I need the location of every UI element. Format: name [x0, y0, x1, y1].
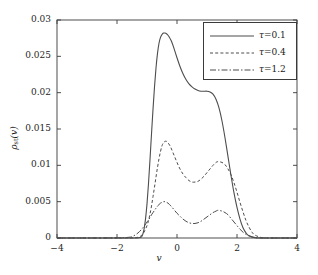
x-tick-label: 4	[277, 244, 317, 253]
legend-line-sample	[209, 30, 255, 42]
legend-label: τ=0.4	[259, 48, 286, 57]
y-axis-label-subscript: st	[12, 138, 20, 144]
x-axis-label: v	[0, 254, 318, 263]
legend-line-sample	[209, 47, 255, 59]
x-tick-label: 0	[157, 244, 197, 253]
legend-label-value: =0.4	[264, 47, 286, 57]
legend-item[interactable]: τ=0.1	[204, 27, 298, 44]
x-axis-label-text: v	[156, 253, 161, 263]
y-axis-label-rho: ρ	[9, 144, 19, 149]
legend-item[interactable]: τ=1.2	[204, 61, 298, 78]
legend-item[interactable]: τ=0.4	[204, 44, 298, 61]
figure-canvas: 00.0050.010.0150.020.0250.03−4−2024 ρst(…	[0, 0, 318, 275]
series-line-2	[57, 202, 297, 238]
y-tick-label: 0	[0, 233, 51, 242]
x-tick-label: 2	[217, 244, 257, 253]
y-axis-label: ρst(v)	[8, 108, 22, 168]
legend-line-sample	[209, 64, 255, 76]
y-tick-label: 0.005	[0, 197, 51, 206]
legend-label-value: =0.1	[264, 30, 286, 40]
x-tick-label: −4	[37, 244, 77, 253]
y-tick-label: 0.02	[0, 88, 51, 97]
series-line-1	[57, 141, 297, 238]
x-tick-label: −2	[97, 244, 137, 253]
legend-label-value: =1.2	[264, 64, 286, 74]
y-axis-label-arg: (v)	[9, 126, 19, 138]
legend: τ=0.1τ=0.4τ=1.2	[203, 22, 297, 80]
y-tick-label: 0.025	[0, 51, 51, 60]
y-tick-label: 0.03	[0, 15, 51, 24]
legend-label: τ=0.1	[259, 31, 286, 40]
legend-label: τ=1.2	[259, 65, 286, 74]
